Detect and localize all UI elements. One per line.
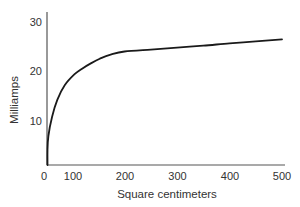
data-line bbox=[47, 39, 282, 165]
y-tick-label: 10 bbox=[30, 115, 42, 127]
x-tick-labels: 0 100 200 300 400 500 bbox=[41, 170, 291, 182]
x-tick-label: 400 bbox=[221, 170, 239, 182]
x-tick-label: 300 bbox=[168, 170, 186, 182]
x-axis-title: Square centimeters bbox=[117, 188, 217, 200]
x-tick-label: 200 bbox=[116, 170, 134, 182]
x-tick-label: 100 bbox=[64, 170, 82, 182]
y-tick-labels: 30 20 10 bbox=[30, 16, 42, 127]
y-tick-label: 20 bbox=[30, 65, 42, 77]
x-tick-label: 500 bbox=[273, 170, 291, 182]
y-axis-title: Milliamps bbox=[8, 76, 20, 124]
y-tick-label: 30 bbox=[30, 16, 42, 28]
chart: 30 20 10 0 100 200 300 400 500 Square ce… bbox=[0, 0, 300, 207]
x-tick-label: 0 bbox=[41, 170, 47, 182]
